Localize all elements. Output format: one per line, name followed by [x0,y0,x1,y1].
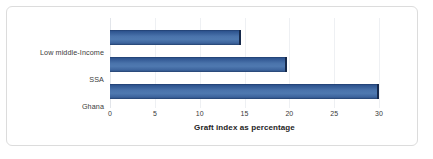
x-tick-0: 0 [108,110,112,117]
bar-ghana[interactable] [110,84,379,99]
x-tick-15: 15 [241,110,249,117]
bar-low-middle-income[interactable] [110,30,241,45]
x-tick-30: 30 [375,110,383,117]
category-label-ghana: Ghana [4,102,104,111]
x-tick-20: 20 [285,110,293,117]
bar-ssa[interactable] [110,57,287,72]
gridline-30 [379,18,380,108]
category-label-ssa: SSA [4,75,104,84]
plot-area [110,18,379,108]
x-tick-25: 25 [330,110,338,117]
category-axis: Low middle-Income SSA Ghana [0,18,104,108]
x-axis-title: Graft index as percentage [110,123,379,132]
x-tick-5: 5 [153,110,157,117]
chart-screenshot: Low middle-Income SSA Ghana 0 5 10 15 20… [0,0,433,159]
x-tick-10: 10 [196,110,204,117]
category-label-low-middle-income: Low middle-Income [4,48,104,57]
